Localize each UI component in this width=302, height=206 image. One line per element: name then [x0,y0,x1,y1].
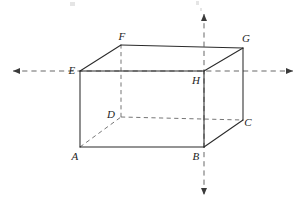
hidden-edges-group [80,45,243,147]
vertex-label-f: F [119,31,126,42]
edge-fg [121,45,243,48]
vertical-axis-arrowhead-end [201,188,207,195]
vertex-label-b: B [193,151,200,162]
vertex-label-g: G [242,33,250,44]
axes-group [13,14,293,195]
edge-dc [121,117,243,120]
vertex-label-d: D [107,109,115,120]
edge-ad [80,117,121,147]
solid-edges-group [80,45,243,147]
vertical-axis-arrowhead-start [201,14,207,21]
scan-speck-2 [200,8,202,11]
edge-ef [80,45,121,71]
horizontal-axis-arrowhead-start [13,68,20,74]
scan-speck-1 [196,1,199,5]
horizontal-axis-arrowhead-end [286,68,293,74]
scan-speck-0 [70,2,75,6]
vertex-label-e: E [69,65,76,76]
vertex-label-c: C [244,117,252,128]
edge-bc [204,120,243,147]
cuboid-diagram-canvas [0,0,302,206]
vertex-label-a: A [72,151,79,162]
edge-gh [204,48,243,71]
vertex-label-h: H [192,75,200,86]
geometry-figure: ABCDEFGH [0,0,302,206]
